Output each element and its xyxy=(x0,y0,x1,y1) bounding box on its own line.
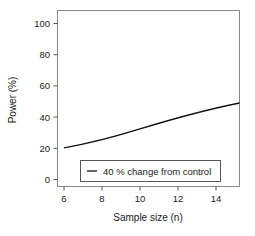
x-tick-label-10: 10 xyxy=(135,193,146,204)
chart-legend[interactable]: 40 % change from control xyxy=(81,161,221,182)
y-axis-title: Power (%) xyxy=(7,77,18,124)
y-tick-label-20: 20 xyxy=(39,143,50,154)
y-tick-label-100: 100 xyxy=(34,18,50,29)
x-tick-label-12: 12 xyxy=(173,193,184,204)
x-axis-title: Sample size (n) xyxy=(113,212,182,223)
y-tick-label-60: 60 xyxy=(39,80,50,91)
legend-label-40-percent-change: 40 % change from control xyxy=(103,166,211,177)
y-tick-label-40: 40 xyxy=(39,112,50,123)
x-tick-label-8: 8 xyxy=(99,193,104,204)
y-tick-label-80: 80 xyxy=(39,49,50,60)
power-vs-sample-size-line-chart: 100 80 60 40 20 0 6 8 10 12 14 Sample si… xyxy=(0,0,255,236)
x-tick-label-6: 6 xyxy=(61,193,66,204)
chart-figure: 100 80 60 40 20 0 6 8 10 12 14 Sample si… xyxy=(0,0,255,236)
y-tick-label-0: 0 xyxy=(45,174,50,185)
x-tick-label-14: 14 xyxy=(211,193,222,204)
